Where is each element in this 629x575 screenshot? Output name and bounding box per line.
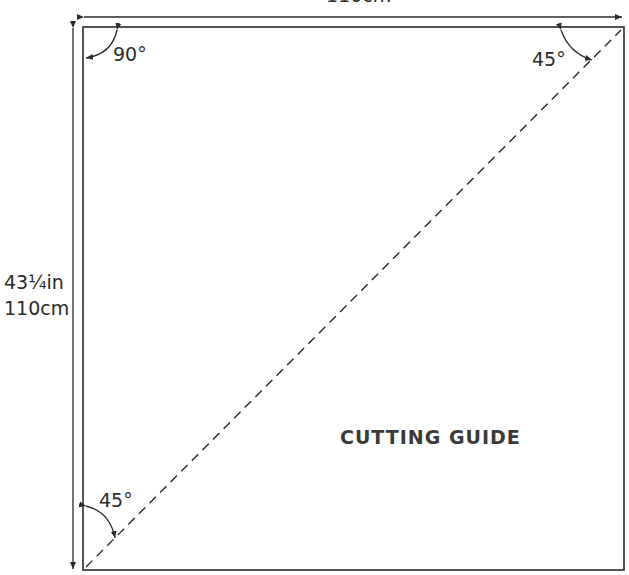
height-label: 43¼in 110cm [4,269,69,321]
cutting-guide-diagram [0,0,629,575]
angle-label-bottom-left: 45° [99,489,133,511]
diagonal-cut-line [86,30,621,567]
diagram-title: CUTTING GUIDE [340,426,521,448]
angle-label-top-right: 45° [532,48,566,70]
width-label: 110cm [326,0,391,6]
height-label-inches: 43¼in [4,269,69,295]
height-label-cm: 110cm [4,295,69,321]
angle-label-top-left: 90° [113,43,147,65]
